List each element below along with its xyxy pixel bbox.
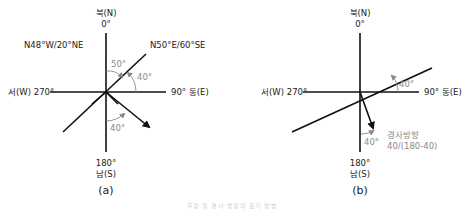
strike-dip-diagram: 북(N) 0° N48°W/20°NE N50°E/60°SE 50° 40° … (0, 0, 464, 210)
strike-line (292, 68, 432, 132)
north-label: 북(N) (96, 8, 117, 18)
strike-line-segment (106, 92, 118, 104)
angle-40-lower-label: 40° (364, 137, 379, 147)
east-label: 90° 동(E) (424, 87, 462, 97)
angle-40-upper-label: 40° (399, 79, 414, 89)
strike-line-segment-2 (92, 92, 106, 104)
south-degree: 180° (96, 158, 116, 168)
south-degree: 180° (350, 158, 370, 168)
west-label: 서(W) 270° (261, 87, 307, 97)
angle-arc-50 (106, 71, 122, 77)
dip-arrow-se (106, 92, 149, 127)
north-degree: 0° (355, 19, 365, 29)
panel-a: 북(N) 0° N48°W/20°NE N50°E/60°SE 50° 40° … (8, 8, 209, 197)
east-label: 90° 동(E) (171, 87, 209, 97)
north-label: 북(N) (350, 8, 371, 18)
panel-a-caption: (a) (98, 184, 113, 197)
plane2-label: N50°E/60°SE (150, 40, 206, 50)
south-label: 남(S) (350, 169, 370, 179)
angle-40-lower-label: 40° (110, 123, 125, 133)
angle-arc-40-lower (361, 131, 373, 134)
angle-40-upper-label: 40° (137, 72, 152, 82)
dip-direction-value: 40/(180-40) (387, 141, 437, 151)
angle-50-label: 50° (111, 59, 126, 69)
north-degree: 0° (101, 19, 111, 29)
panel-b-caption: (b) (352, 184, 368, 197)
figure-caption: 주향 및 경사 방향의 표기 방법 (0, 201, 464, 210)
panel-b: 북(N) 0° 40° 서(W) 270° 90° 동(E) 40° 경사방향 … (261, 8, 462, 197)
angle-arc-40-upper (392, 76, 398, 92)
dip-direction-label: 경사방향 (387, 130, 419, 140)
west-label: 서(W) 270° (8, 87, 54, 97)
angle-arc-40-lower (106, 114, 124, 121)
south-label: 남(S) (96, 169, 116, 179)
angle-arc-40-upper (128, 73, 136, 92)
plane1-label: N48°W/20°NE (24, 40, 84, 50)
